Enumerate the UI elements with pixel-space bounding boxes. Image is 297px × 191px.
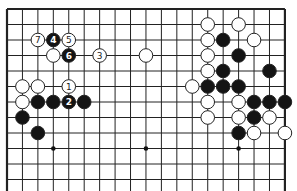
black-stone [201, 80, 215, 94]
stone-disc [201, 64, 215, 78]
white-stone-move-1: 1 [62, 80, 76, 94]
white-stone-move-3: 3 [93, 49, 107, 63]
stone-disc [263, 111, 277, 125]
move-number-label: 5 [66, 35, 72, 45]
stone-disc [263, 64, 277, 78]
black-stone-move-4: 4 [47, 33, 61, 47]
black-stone [31, 126, 45, 140]
stones: 7456312 [16, 18, 292, 140]
stone-disc [201, 49, 215, 63]
white-stone [201, 49, 215, 63]
white-stone [16, 80, 30, 94]
black-stone [278, 95, 292, 109]
black-stone-move-6: 6 [62, 49, 76, 63]
white-stone [247, 33, 261, 47]
star-point [51, 146, 56, 151]
stone-disc [232, 80, 246, 94]
move-number-label: 6 [66, 51, 72, 61]
white-stone-move-7: 7 [31, 33, 45, 47]
white-stone [185, 80, 199, 94]
white-stone [232, 95, 246, 109]
move-number-label: 7 [35, 35, 41, 45]
white-stone [247, 126, 261, 140]
black-stone [47, 95, 61, 109]
stone-disc [247, 33, 261, 47]
stone-disc [16, 95, 30, 109]
stone-disc [216, 80, 230, 94]
star-point [236, 146, 241, 151]
stone-disc [47, 95, 61, 109]
stone-disc [16, 111, 30, 125]
black-stone [16, 111, 30, 125]
stone-disc [16, 80, 30, 94]
stone-disc [278, 95, 292, 109]
white-stone [201, 111, 215, 125]
black-stone [247, 95, 261, 109]
move-number-label: 3 [97, 51, 103, 61]
stone-disc [232, 111, 246, 125]
black-stone [247, 111, 261, 125]
white-stone [278, 126, 292, 140]
stone-disc [232, 95, 246, 109]
move-number-label: 4 [50, 35, 56, 45]
white-stone [201, 18, 215, 32]
black-stone [232, 49, 246, 63]
stone-disc [77, 95, 91, 109]
white-stone [16, 95, 30, 109]
black-stone [216, 80, 230, 94]
star-point [144, 146, 149, 151]
move-number-label: 1 [66, 82, 72, 92]
stone-disc [247, 95, 261, 109]
stone-disc [139, 49, 153, 63]
move-number-label: 2 [66, 97, 72, 107]
stone-disc [185, 80, 199, 94]
black-stone [216, 33, 230, 47]
stone-disc [247, 111, 261, 125]
black-stone [263, 64, 277, 78]
stone-disc [31, 126, 45, 140]
stone-disc [201, 95, 215, 109]
black-stone [232, 126, 246, 140]
stone-disc [232, 126, 246, 140]
black-stone [77, 95, 91, 109]
stone-disc [201, 33, 215, 47]
stone-disc [47, 49, 61, 63]
stone-disc [232, 18, 246, 32]
stone-disc [201, 18, 215, 32]
white-stone [47, 49, 61, 63]
white-stone [201, 64, 215, 78]
stone-disc [278, 126, 292, 140]
white-stone [31, 80, 45, 94]
white-stone [232, 111, 246, 125]
stone-disc [31, 95, 45, 109]
go-board-diagram: 7456312 [0, 0, 297, 191]
white-stone [201, 33, 215, 47]
stone-disc [31, 80, 45, 94]
stone-disc [201, 111, 215, 125]
stone-disc [247, 126, 261, 140]
black-stone-move-2: 2 [62, 95, 76, 109]
white-stone [139, 49, 153, 63]
white-stone [263, 111, 277, 125]
black-stone [31, 95, 45, 109]
stone-disc [201, 80, 215, 94]
black-stone [216, 64, 230, 78]
black-stone [232, 80, 246, 94]
stone-disc [232, 49, 246, 63]
white-stone [201, 95, 215, 109]
stone-disc [216, 33, 230, 47]
stone-disc [216, 64, 230, 78]
black-stone [263, 95, 277, 109]
stone-disc [263, 95, 277, 109]
white-stone [232, 18, 246, 32]
white-stone-move-5: 5 [62, 33, 76, 47]
